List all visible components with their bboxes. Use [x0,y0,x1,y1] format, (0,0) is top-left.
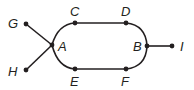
edge-g-a [26,24,52,45]
graph-diagram: A B C D E F G H I [0,0,194,90]
node-d-dot [124,21,129,26]
node-c-dot [73,21,78,26]
node-label-e: E [70,75,79,88]
node-label-a: A [58,40,67,53]
node-e-dot [73,67,78,72]
node-label-i: I [180,40,184,53]
node-label-g: G [8,17,18,30]
node-f-dot [124,67,129,72]
edge-h-a [26,45,52,70]
node-b-dot [145,44,150,49]
node-h-dot [24,68,29,73]
node-label-h: H [8,65,17,78]
node-g-dot [24,22,29,27]
node-label-c: C [70,5,79,18]
node-label-d: D [121,5,130,18]
graph-edges [0,0,194,90]
node-i-dot [170,44,175,49]
node-label-f: F [121,75,129,88]
node-a-dot [50,43,55,48]
node-label-b: B [133,40,142,53]
